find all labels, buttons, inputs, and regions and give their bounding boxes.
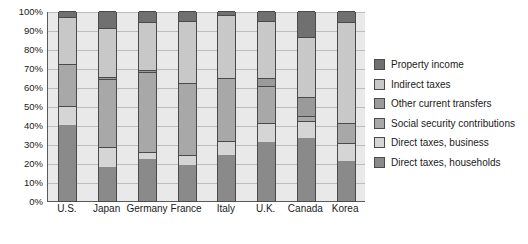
bar-segment (338, 143, 355, 161)
legend-item: Other current transfers (374, 94, 526, 114)
stacked-bar (337, 12, 356, 202)
bar-column (98, 12, 117, 202)
bar-column (58, 12, 77, 202)
legend-swatch-icon (374, 157, 385, 168)
bar-segment (298, 11, 315, 37)
bar-segment (258, 142, 275, 201)
bar-segment (59, 64, 76, 106)
legend-item-label: Property income (391, 59, 464, 70)
x-axis-tick-label: Canada (286, 203, 326, 214)
legend-swatch-icon (374, 59, 385, 70)
bar-segment (258, 21, 275, 77)
y-axis-tick-label: 30% (24, 140, 43, 150)
stacked-bar (297, 12, 316, 202)
x-axis: U.S.JapanGermanyFranceItalyU.K.CanadaKor… (47, 203, 365, 221)
bar-column (178, 12, 197, 202)
bar-segment (139, 72, 156, 152)
y-axis-tick-label: 20% (24, 159, 43, 169)
chart-container: 100%90%80%70%60%50%40%30%20%10%0% U.S.Ja… (0, 0, 528, 244)
bar-segment (139, 159, 156, 201)
legend-item: Indirect taxes (374, 75, 526, 95)
bar-segment (298, 138, 315, 201)
chart-legend: Property incomeIndirect taxesOther curre… (374, 55, 526, 172)
bar-segment (139, 11, 156, 22)
y-axis-tick-label: 10% (24, 178, 43, 188)
bar-segment (298, 121, 315, 138)
x-axis-tick-label: U.S. (47, 203, 87, 214)
legend-item: Direct taxes, business (374, 133, 526, 153)
legend-swatch-icon (374, 98, 385, 109)
legend-item-label: Indirect taxes (391, 79, 450, 90)
bar-segment (139, 152, 156, 160)
y-axis-tick-label: 70% (24, 64, 43, 74)
y-axis-tick-label: 60% (24, 83, 43, 93)
stacked-bar (217, 12, 236, 202)
bar-segment (139, 22, 156, 70)
y-axis-tick-label: 100% (19, 7, 43, 17)
y-axis-tick-label: 90% (24, 26, 43, 36)
legend-item-label: Other current transfers (391, 98, 492, 109)
bar-segment (179, 155, 196, 165)
bar-segment (258, 123, 275, 142)
x-axis-tick-label: Korea (325, 203, 365, 214)
bar-segment (99, 167, 116, 201)
bar-segment (59, 106, 76, 125)
legend-item-label: Direct taxes, business (391, 137, 489, 148)
bar-segment (99, 77, 116, 80)
bar-segment (258, 78, 275, 87)
legend-swatch-icon (374, 137, 385, 148)
x-axis-tick-label: Japan (87, 203, 127, 214)
legend-item: Property income (374, 55, 526, 75)
stacked-bar (58, 12, 77, 202)
y-axis-tick-label: 80% (24, 45, 43, 55)
bar-segment (298, 116, 315, 122)
x-axis-tick-label: France (166, 203, 206, 214)
bar-segment (338, 22, 355, 123)
legend-item-label: Direct taxes, households (391, 157, 501, 168)
bar-segment (338, 161, 355, 201)
bar-segment (99, 79, 116, 146)
bar-column (257, 12, 276, 202)
bar-segment (139, 70, 156, 72)
stacked-bar (98, 12, 117, 202)
x-axis-tick-label: Germany (127, 203, 167, 214)
legend-swatch-icon (374, 79, 385, 90)
legend-item: Direct taxes, households (374, 153, 526, 173)
bar-segment (59, 11, 76, 17)
bar-segment (179, 165, 196, 201)
bar-segment (99, 28, 116, 76)
bar-segment (179, 83, 196, 155)
bar-segment (218, 15, 235, 79)
bar-segment (338, 11, 355, 22)
bar-segment (218, 155, 235, 201)
bar-segment (338, 123, 355, 143)
bar-segment (99, 11, 116, 28)
bar-segment (179, 11, 196, 21)
x-axis-tick-label: U.K. (246, 203, 286, 214)
bar-segment (179, 21, 196, 84)
x-axis-tick-label: Italy (206, 203, 246, 214)
legend-item-label: Social security contributions (391, 118, 515, 129)
legend-item: Social security contributions (374, 114, 526, 134)
bar-segment (218, 11, 235, 15)
plot-area (47, 12, 365, 202)
bar-segment (298, 97, 315, 116)
bar-segment (218, 141, 235, 155)
stacked-bar (257, 12, 276, 202)
y-axis-tick-label: 0% (29, 197, 43, 207)
bar-segment (59, 125, 76, 201)
y-axis: 100%90%80%70%60%50%40%30%20%10%0% (0, 0, 45, 202)
bar-segment (99, 147, 116, 167)
bar-segment (298, 37, 315, 97)
bar-column (337, 12, 356, 202)
bar-column (297, 12, 316, 202)
bar-segment (218, 78, 235, 141)
bar-segment (59, 17, 76, 65)
y-axis-tick-label: 40% (24, 121, 43, 131)
bar-segment (258, 86, 275, 123)
bar-column (138, 12, 157, 202)
bar-column (217, 12, 236, 202)
legend-swatch-icon (374, 118, 385, 129)
bar-segment (258, 11, 275, 21)
y-axis-tick-label: 50% (24, 102, 43, 112)
